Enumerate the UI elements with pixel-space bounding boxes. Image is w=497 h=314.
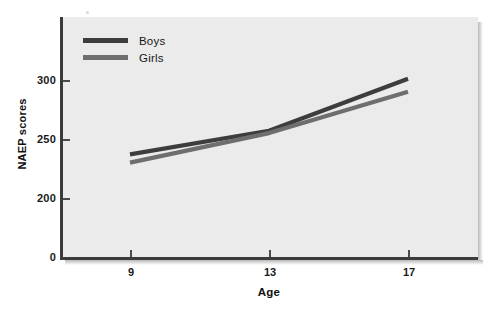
series-line-boys bbox=[130, 79, 408, 155]
chart-figure: 300 250 200 0 9 13 17 NAEP scores Age Bo… bbox=[0, 0, 497, 314]
series-line-girls bbox=[130, 92, 408, 163]
series-layer bbox=[0, 0, 497, 314]
